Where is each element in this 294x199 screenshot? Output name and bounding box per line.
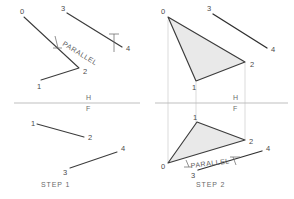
step2-parallel-tick-left bbox=[186, 160, 189, 167]
step2-front-label-3: 3 bbox=[191, 171, 195, 180]
step2-top-line-3-4 bbox=[213, 14, 267, 48]
parallel-annotation-bottom: PARALLEL bbox=[190, 157, 230, 169]
step1-front-label-1: 1 bbox=[31, 119, 35, 128]
step1-top-label-1: 1 bbox=[37, 82, 41, 91]
technical-drawing-canvas: PARALLEL 0 1 2 3 4 H F 1 2 3 4 STEP 1 0 … bbox=[0, 0, 294, 199]
step2-reference-line-group: H F bbox=[155, 94, 288, 112]
step2-front-view: PARALLEL 0 1 2 3 4 bbox=[161, 113, 270, 180]
step2-top-label-2: 2 bbox=[250, 60, 254, 69]
parallel-annotation-top: PARALLEL bbox=[61, 40, 98, 67]
step2-top-label-0: 0 bbox=[161, 7, 165, 16]
drawing-sheet: PARALLEL 0 1 2 3 4 H F 1 2 3 4 STEP 1 0 … bbox=[0, 0, 294, 199]
step1-top-label-3: 3 bbox=[61, 4, 65, 13]
step1-h-label: H bbox=[86, 94, 91, 101]
step1-top-label-2: 2 bbox=[83, 67, 87, 76]
step1-top-view: PARALLEL 0 1 2 3 4 bbox=[20, 4, 130, 91]
step2-h-label: H bbox=[233, 94, 238, 101]
step2-front-label-0: 0 bbox=[161, 162, 165, 171]
step2-f-label: F bbox=[233, 105, 237, 112]
step1-reference-line-group: H F bbox=[14, 94, 140, 112]
step2-front-label-4: 4 bbox=[266, 144, 270, 153]
step2-top-label-4: 4 bbox=[271, 45, 275, 54]
step-1-caption: STEP 1 bbox=[41, 181, 70, 188]
step1-top-label-0: 0 bbox=[20, 7, 24, 16]
step2-front-label-1: 1 bbox=[193, 113, 197, 122]
step2-top-label-3: 3 bbox=[207, 4, 211, 13]
step1-front-line-3-4 bbox=[70, 152, 117, 168]
step1-front-view: 1 2 3 4 bbox=[31, 119, 125, 177]
step1-front-line-1-2 bbox=[37, 124, 84, 137]
step-2-caption: STEP 2 bbox=[196, 181, 225, 188]
step2-front-label-2: 2 bbox=[249, 137, 253, 146]
step2-top-label-1: 1 bbox=[192, 83, 196, 92]
step1-front-label-2: 2 bbox=[88, 133, 92, 142]
step1-front-label-3: 3 bbox=[63, 168, 67, 177]
step1-f-label: F bbox=[86, 105, 90, 112]
step1-top-label-4: 4 bbox=[126, 44, 130, 53]
step2-top-view: 0 1 2 3 4 bbox=[161, 4, 275, 92]
step1-front-label-4: 4 bbox=[121, 144, 125, 153]
